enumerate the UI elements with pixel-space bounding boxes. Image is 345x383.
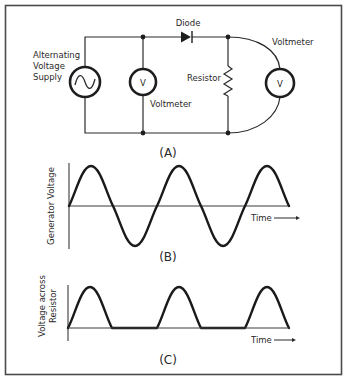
junction-dot xyxy=(141,35,146,40)
voltmeter-left: V xyxy=(130,69,156,95)
sine-wave-icon xyxy=(75,76,95,89)
caption-c: (C) xyxy=(159,353,177,367)
resistor-zigzag-icon xyxy=(224,66,232,96)
graph-c-rectified-wave xyxy=(68,287,289,328)
graph-c-xlabel: Time xyxy=(250,335,272,345)
graph-b-ylabel: Generator Voltage xyxy=(46,167,56,245)
graph-c-arrowhead-icon xyxy=(292,338,296,342)
graph-b-xlabel: Time xyxy=(250,213,272,223)
figure-canvas: V V Alternating Voltage Supply Diode Res… xyxy=(0,0,345,383)
junction-dot xyxy=(141,131,146,136)
graph-b-arrowhead-icon xyxy=(296,216,300,220)
diode-triangle-icon xyxy=(181,32,191,43)
caption-a: (A) xyxy=(159,146,177,160)
caption-b: (B) xyxy=(159,250,177,264)
graph-c-ylabel-line-2: Resistor xyxy=(48,288,58,323)
diode xyxy=(181,31,192,43)
source-label-line-1: Alternating xyxy=(33,50,80,60)
graph-b: Generator Voltage Time (B) xyxy=(46,163,300,264)
voltmeter-left-label: Voltmeter xyxy=(150,99,192,109)
source-label-line-2: Voltage xyxy=(33,61,65,71)
circuit-diagram: V V Alternating Voltage Supply Diode Res… xyxy=(33,18,314,160)
right-voltmeter-lead-bottom xyxy=(228,97,280,133)
voltmeter-right-label: Voltmeter xyxy=(272,37,314,47)
voltmeter-right: V xyxy=(266,69,294,97)
graph-c-ylabel-line-1: Voltage across xyxy=(37,275,47,337)
junction-dot xyxy=(226,131,231,136)
resistor-label: Resistor xyxy=(187,73,222,83)
junction-dot xyxy=(226,35,231,40)
top-left-wire xyxy=(85,37,181,67)
graph-c: Voltage across Resistor Time (C) xyxy=(37,275,296,367)
source-label-line-3: Supply xyxy=(33,72,62,82)
diode-label: Diode xyxy=(176,18,201,28)
ac-source xyxy=(70,67,100,97)
voltmeter-left-symbol: V xyxy=(140,78,146,88)
voltmeter-right-symbol: V xyxy=(277,79,283,89)
